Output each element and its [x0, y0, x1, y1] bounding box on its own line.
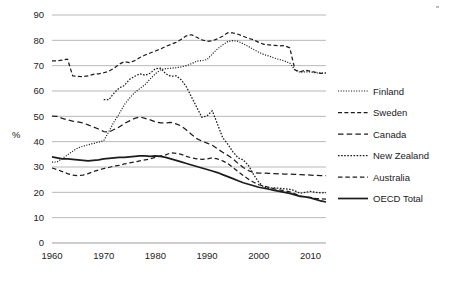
y-tick-label: 10 — [33, 212, 44, 223]
y-tick-label: 40 — [33, 136, 44, 147]
y-axis-tick-labels: 0102030405060708090 — [33, 9, 44, 248]
series-group — [52, 33, 326, 202]
legend-item-canada[interactable]: Canada — [338, 129, 407, 140]
y-tick-label: 90 — [33, 9, 44, 20]
legend-label: Canada — [373, 129, 407, 140]
x-tick-label: 1990 — [197, 250, 218, 261]
legend-label: New Zealand — [373, 150, 429, 161]
scan-artifact-speck — [436, 6, 439, 8]
series-line-sweden — [52, 33, 326, 77]
y-tick-label: 30 — [33, 161, 44, 172]
legend-item-oecd-total[interactable]: OECD Total — [338, 193, 423, 204]
y-tick-label: 70 — [33, 60, 44, 71]
legend-item-australia[interactable]: Australia — [338, 172, 411, 183]
legend-label: OECD Total — [373, 193, 423, 204]
legend-item-sweden[interactable]: Sweden — [338, 107, 407, 118]
y-tick-label: 80 — [33, 35, 44, 46]
y-axis-title: % — [12, 129, 21, 140]
y-tick-label: 60 — [33, 85, 44, 96]
chart-container: 0102030405060708090 19601970198019902000… — [0, 0, 453, 289]
legend-item-finland[interactable]: Finland — [338, 86, 404, 97]
series-line-oecd-total — [52, 156, 326, 202]
chart-legend: FinlandSwedenCanadaNew ZealandAustraliaO… — [338, 86, 429, 205]
x-tick-label: 1960 — [41, 250, 62, 261]
x-tick-label: 1970 — [93, 250, 114, 261]
legend-label: Finland — [373, 86, 404, 97]
y-tick-label: 0 — [39, 237, 44, 248]
legend-label: Sweden — [373, 107, 407, 118]
x-axis-tick-labels: 196019701980199020002010 — [41, 250, 321, 261]
gridlines — [52, 15, 326, 243]
y-tick-label: 50 — [33, 111, 44, 122]
x-tick-label: 2000 — [248, 250, 269, 261]
legend-item-new-zealand[interactable]: New Zealand — [338, 150, 429, 161]
legend-label: Australia — [373, 172, 411, 183]
x-tick-label: 1980 — [145, 250, 166, 261]
line-chart: 0102030405060708090 19601970198019902000… — [0, 0, 453, 289]
series-line-finland — [52, 41, 326, 163]
y-tick-label: 20 — [33, 187, 44, 198]
x-tick-label: 2010 — [300, 250, 321, 261]
